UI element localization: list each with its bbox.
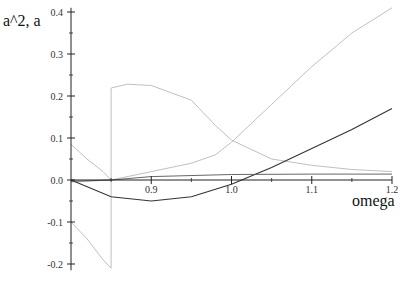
y-tick-label: -0.1 (47, 217, 63, 228)
y-tick-label: -0.2 (47, 259, 63, 270)
x-tick-label: 0.9 (145, 184, 158, 195)
y-axis-label: a^2, a (3, 12, 41, 29)
y-tick-label: 0.2 (51, 91, 64, 102)
y-tick-label: 0.3 (51, 49, 64, 60)
series-line-0 (71, 8, 392, 182)
y-tick-label: 0.1 (51, 133, 64, 144)
x-tick-label: 1.1 (306, 184, 319, 195)
plot-curves (71, 8, 392, 268)
axes: 0.40.30.20.10.0-0.1-0.20.91.01.11.2 (47, 7, 398, 271)
y-tick-label: 0.0 (51, 175, 64, 186)
x-tick-label: 1.0 (225, 184, 238, 195)
series-line-2 (71, 180, 111, 268)
y-tick-label: 0.4 (51, 7, 64, 18)
series-line-1 (71, 84, 392, 180)
x-axis-label: omega (352, 192, 395, 210)
chart-canvas: 0.40.30.20.10.0-0.1-0.20.91.01.11.2 a^2,… (0, 0, 408, 281)
